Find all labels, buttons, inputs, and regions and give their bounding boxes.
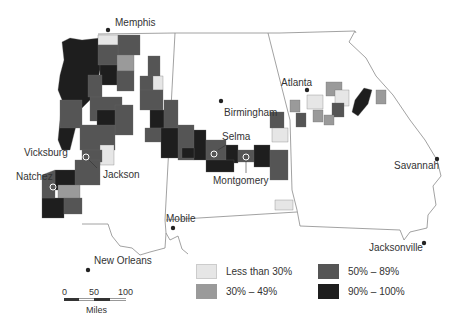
legend-swatch bbox=[196, 264, 217, 279]
mobile-marker bbox=[171, 226, 175, 230]
map-legend: Less than 30% 30% – 49% 50% – 89% 90% – … bbox=[196, 262, 436, 302]
county bbox=[140, 90, 163, 110]
legend-label: 50% – 89% bbox=[348, 266, 399, 277]
legend-label: 30% – 49% bbox=[226, 286, 277, 297]
city-label-jacksonville: Jacksonville bbox=[369, 243, 423, 253]
county bbox=[290, 100, 300, 112]
county bbox=[270, 150, 288, 180]
georgia-counties bbox=[290, 82, 386, 127]
county bbox=[117, 71, 134, 91]
legend-item-30-49: 30% – 49% bbox=[196, 284, 277, 299]
scale-tick-0: 0 bbox=[62, 287, 67, 297]
scale-bar-graphic bbox=[64, 298, 126, 301]
city-label-jackson: Jackson bbox=[103, 170, 140, 180]
county bbox=[118, 35, 140, 55]
county bbox=[324, 115, 334, 125]
county bbox=[164, 100, 178, 128]
county bbox=[145, 128, 161, 142]
county bbox=[313, 110, 323, 122]
state-borders bbox=[82, 31, 441, 255]
legend-swatch bbox=[196, 284, 217, 299]
county bbox=[98, 45, 118, 65]
county bbox=[150, 110, 164, 128]
legend-item-less-than-30: Less than 30% bbox=[196, 264, 292, 279]
county bbox=[148, 56, 160, 78]
vicksburg-marker bbox=[71, 149, 77, 155]
county bbox=[117, 55, 134, 71]
county bbox=[98, 35, 118, 45]
county bbox=[161, 128, 179, 158]
county bbox=[194, 130, 206, 160]
ms-south-border bbox=[82, 224, 166, 255]
county bbox=[42, 198, 64, 218]
county bbox=[97, 110, 117, 126]
county bbox=[296, 113, 306, 127]
county bbox=[60, 100, 82, 128]
county bbox=[58, 185, 80, 199]
atlanta-marker bbox=[305, 88, 309, 92]
county bbox=[307, 95, 323, 109]
county bbox=[182, 148, 194, 158]
city-label-montgomery: Montgomery bbox=[213, 176, 269, 186]
city-label-savannah: Savannah bbox=[394, 161, 439, 171]
birmingham-marker bbox=[219, 99, 223, 103]
scale-tick-50: 50 bbox=[89, 287, 99, 297]
county bbox=[275, 200, 293, 210]
city-label-selma: Selma bbox=[222, 132, 250, 142]
city-label-atlanta: Atlanta bbox=[281, 78, 312, 88]
legend-label: 90% – 100% bbox=[348, 286, 405, 297]
new-orleans-marker bbox=[86, 268, 90, 272]
city-label-natchez: Natchez bbox=[16, 172, 53, 182]
county bbox=[254, 145, 270, 167]
alabama-counties bbox=[140, 56, 293, 210]
county bbox=[88, 75, 102, 97]
county bbox=[153, 76, 163, 90]
scale-unit-label: Miles bbox=[86, 305, 107, 315]
ga-fl-border bbox=[297, 210, 410, 240]
county bbox=[376, 90, 386, 104]
city-label-memphis: Memphis bbox=[115, 18, 156, 28]
northern-border bbox=[98, 31, 356, 34]
county bbox=[115, 105, 133, 135]
city-label-birmingham: Birmingham bbox=[224, 108, 277, 118]
city-label-new-orleans: New Orleans bbox=[94, 256, 152, 266]
county bbox=[64, 198, 82, 214]
county bbox=[206, 160, 234, 172]
al-gulf-coast bbox=[166, 233, 188, 254]
county bbox=[140, 76, 153, 90]
county bbox=[272, 128, 288, 142]
scale-tick-100: 100 bbox=[118, 287, 133, 297]
memphis-marker bbox=[106, 28, 110, 32]
county bbox=[100, 65, 117, 85]
county bbox=[206, 140, 226, 160]
legend-item-90-100: 90% – 100% bbox=[318, 284, 405, 299]
legend-swatch bbox=[318, 264, 339, 279]
legend-swatch bbox=[318, 284, 339, 299]
city-label-mobile: Mobile bbox=[166, 214, 195, 224]
ga-east-border bbox=[349, 31, 441, 232]
county bbox=[352, 88, 372, 116]
city-label-vicksburg: Vicksburg bbox=[24, 148, 68, 158]
legend-item-50-89: 50% – 89% bbox=[318, 264, 399, 279]
legend-label: Less than 30% bbox=[226, 266, 292, 277]
county bbox=[75, 160, 100, 185]
mississippi-counties bbox=[42, 35, 140, 218]
